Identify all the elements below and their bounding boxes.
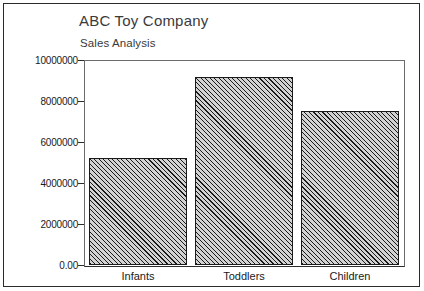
chart-window: ABC Toy Company Sales Analysis 100000008… xyxy=(3,3,420,287)
bar-children xyxy=(301,111,400,265)
bar-toddlers xyxy=(195,77,294,265)
y-axis-tick-mark xyxy=(78,101,84,102)
y-axis-tick-mark xyxy=(78,60,84,61)
chart-subtitle: Sales Analysis xyxy=(80,37,156,49)
chart-title: ABC Toy Company xyxy=(79,12,208,29)
y-axis-tick-label: 8000000 xyxy=(40,96,78,107)
x-axis-tick-label: Toddlers xyxy=(223,270,265,282)
y-axis-tick-label: 0.00 xyxy=(59,260,78,271)
y-axis-tick-mark xyxy=(78,224,84,225)
y-axis-tick-mark xyxy=(78,142,84,143)
x-axis-tick-label: Children xyxy=(330,270,371,282)
y-axis-tick-label: 6000000 xyxy=(40,137,78,148)
bar-series xyxy=(85,60,403,265)
y-axis-tick-label: 4000000 xyxy=(40,178,78,189)
bar-infants xyxy=(89,158,188,265)
y-axis-tick-label: 2000000 xyxy=(40,219,78,230)
y-axis-tick-mark xyxy=(78,265,84,266)
y-axis-tick-label: 10000000 xyxy=(35,55,78,66)
y-axis: 1000000080000006000000400000020000000.00 xyxy=(4,60,78,265)
y-axis-tick-mark xyxy=(78,183,84,184)
x-axis-tick-label: Infants xyxy=(121,270,154,282)
x-axis: InfantsToddlersChildren xyxy=(85,270,403,288)
